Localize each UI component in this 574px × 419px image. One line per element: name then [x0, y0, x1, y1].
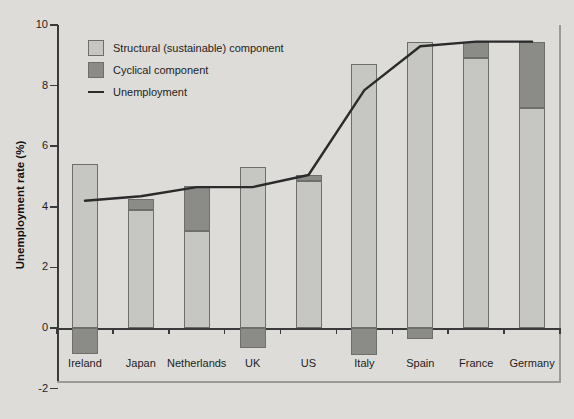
- y-axis-tick-label: 2: [22, 260, 48, 272]
- y-axis-tick: [50, 206, 58, 208]
- y-axis-tick: [50, 267, 58, 269]
- x-axis-tick: [280, 328, 282, 334]
- y-axis-tick-label: 4: [22, 200, 48, 212]
- bar-cyclical-japan: [128, 199, 154, 210]
- legend-label: Cyclical component: [113, 64, 208, 76]
- x-axis-label-uk: UK: [245, 357, 260, 369]
- bar-structural-ireland: [72, 164, 98, 328]
- bar-structural-france: [463, 58, 489, 328]
- chart-container: Unemployment rate (%) -20246810 IrelandJ…: [0, 0, 574, 419]
- x-axis-tick: [392, 328, 394, 334]
- y-axis-tick-label: 6: [22, 139, 48, 151]
- x-axis-tick: [336, 328, 338, 334]
- x-axis-label-ireland: Ireland: [68, 357, 102, 369]
- y-axis-tick-label: 8: [22, 79, 48, 91]
- x-axis-zero-line: [57, 328, 561, 330]
- y-axis-tick-label: 10: [22, 18, 48, 30]
- x-axis-label-netherlands: Netherlands: [167, 357, 226, 369]
- bar-cyclical-germany: [519, 42, 545, 109]
- x-axis-label-us: US: [301, 357, 316, 369]
- x-axis-tick: [224, 328, 226, 334]
- bar-structural-uk: [240, 167, 266, 328]
- bar-structural-spain: [407, 42, 433, 328]
- legend-swatch-icon: [88, 40, 104, 56]
- legend-item-1: Cyclical component: [88, 60, 284, 79]
- y-axis-tick: [50, 24, 58, 26]
- x-axis-label-france: France: [459, 357, 493, 369]
- x-axis-label-italy: Italy: [354, 357, 374, 369]
- bar-cyclical-netherlands: [184, 186, 210, 231]
- bar-cyclical-spain: [407, 328, 433, 339]
- legend-label: Structural (sustainable) component: [113, 42, 284, 54]
- bar-structural-italy: [351, 64, 377, 328]
- legend-label: Unemployment: [113, 86, 187, 98]
- bar-cyclical-ireland: [72, 328, 98, 354]
- bar-cyclical-uk: [240, 328, 266, 348]
- x-axis-tick: [503, 328, 505, 334]
- legend-item-0: Structural (sustainable) component: [88, 38, 284, 57]
- x-axis-label-germany: Germany: [509, 357, 554, 369]
- legend-swatch-icon: [88, 62, 104, 78]
- bar-structural-japan: [128, 210, 154, 328]
- x-axis-tick: [112, 328, 114, 334]
- x-axis-tick: [447, 328, 449, 334]
- y-axis-tick-label: -2: [22, 382, 48, 394]
- x-axis-label-japan: Japan: [126, 357, 156, 369]
- x-axis-tick: [56, 328, 58, 334]
- bar-structural-us: [296, 181, 322, 328]
- y-axis-tick: [50, 145, 58, 147]
- y-axis-title-wrapper: Unemployment rate (%): [0, 0, 10, 120]
- bar-cyclical-italy: [351, 328, 377, 355]
- legend-item-2: Unemployment: [88, 82, 284, 101]
- x-axis-tick: [559, 328, 561, 334]
- bar-cyclical-france: [463, 42, 489, 59]
- bar-structural-germany: [519, 108, 545, 328]
- y-axis-tick: [50, 388, 58, 390]
- y-axis-tick-label: 0: [22, 321, 48, 333]
- legend-line-icon: [88, 84, 104, 100]
- x-axis-tick: [168, 328, 170, 334]
- bar-cyclical-us: [296, 175, 322, 181]
- bar-structural-netherlands: [184, 231, 210, 328]
- x-axis-label-spain: Spain: [406, 357, 434, 369]
- y-axis-tick: [50, 85, 58, 87]
- chart-legend: Structural (sustainable) componentCyclic…: [88, 38, 284, 104]
- plot-frame-bottom: [57, 381, 561, 383]
